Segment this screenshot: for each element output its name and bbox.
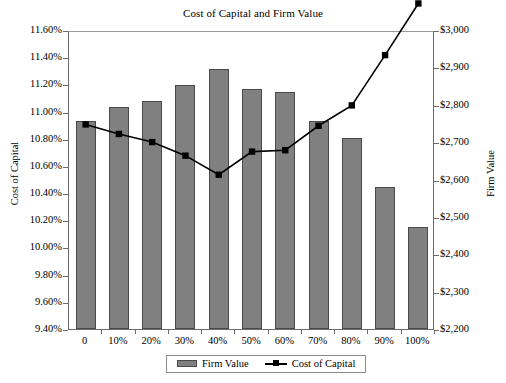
line-data-point — [249, 148, 255, 154]
line-data-point — [116, 131, 122, 137]
line-marker-swatch-icon — [265, 359, 287, 368]
cost-of-capital-markers — [82, 0, 421, 178]
right-tick-label: $2,600 — [440, 175, 500, 186]
left-tick-label: 10.80% — [2, 134, 62, 145]
line-data-point — [349, 102, 355, 108]
left-tick-label: 9.60% — [2, 297, 62, 308]
right-tick-label: $2,500 — [440, 212, 500, 223]
left-tick-mark — [63, 330, 68, 331]
right-tick-label: $2,800 — [440, 100, 500, 111]
left-tick-label: 10.60% — [2, 161, 62, 172]
line-data-point — [82, 121, 88, 127]
left-tick-label: 11.40% — [2, 52, 62, 63]
right-tick-label: $2,300 — [440, 287, 500, 298]
left-tick-label: 10.00% — [2, 242, 62, 253]
right-tick-label: $2,900 — [440, 62, 500, 73]
legend-label-firm-value: Firm Value — [202, 358, 249, 369]
left-tick-label: 9.40% — [2, 324, 62, 335]
legend-item-cost-of-capital: Cost of Capital — [265, 358, 356, 369]
right-tick-label: $2,700 — [440, 137, 500, 148]
bar-swatch-icon — [177, 360, 197, 367]
chart-container: Cost of Capital and Firm Value Cost of C… — [0, 0, 506, 383]
left-tick-label: 11.20% — [2, 79, 62, 90]
left-tick-label: 10.40% — [2, 188, 62, 199]
right-tick-label: $3,000 — [440, 25, 500, 36]
line-data-point — [149, 139, 155, 145]
left-tick-label: 10.20% — [2, 215, 62, 226]
chart-title: Cost of Capital and Firm Value — [0, 7, 506, 19]
line-data-point — [182, 152, 188, 158]
left-tick-label: 11.60% — [2, 25, 62, 36]
line-data-point — [315, 123, 321, 129]
line-series — [69, 32, 435, 331]
left-tick-label: 9.80% — [2, 270, 62, 281]
right-tick-label: $2,200 — [440, 324, 500, 335]
line-data-point — [282, 147, 288, 153]
plot-area — [68, 31, 434, 330]
left-tick-label: 11.00% — [2, 107, 62, 118]
chart-legend: Firm Value Cost of Capital — [166, 355, 366, 373]
line-data-point — [382, 52, 388, 58]
legend-item-firm-value: Firm Value — [177, 358, 249, 369]
line-data-point — [415, 0, 421, 6]
legend-label-cost-of-capital: Cost of Capital — [292, 358, 356, 369]
x-tick-label: 100% — [392, 336, 442, 347]
right-tick-label: $2,400 — [440, 249, 500, 260]
line-data-point — [216, 172, 222, 178]
